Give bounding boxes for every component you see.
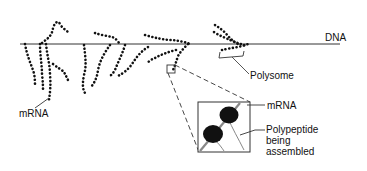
polypeptide-label-line1: Polypeptide [266, 124, 318, 135]
polysome-label: Polysome [250, 70, 294, 81]
polypeptide-label-line2: being [266, 135, 290, 146]
ribosome-top [220, 107, 239, 124]
dna-label: DNA [325, 32, 346, 43]
polypeptide-label-line3: assembled [266, 146, 314, 157]
polysome-bracket [219, 51, 244, 58]
mrna-inset-label: mRNA [267, 100, 296, 111]
zoom-line-top [175, 65, 250, 102]
mrna-left-pointer [35, 98, 49, 108]
ribosome-bottom [203, 125, 223, 143]
zoom-line-bottom [168, 73, 199, 152]
transcription-translation-diagram: DNA Polysome mRNA mRNA Polypeptide being… [0, 0, 367, 171]
mrna-left-label: mRNA [19, 108, 48, 119]
polysome-pointer [232, 57, 249, 74]
mrna-strands [25, 22, 248, 100]
